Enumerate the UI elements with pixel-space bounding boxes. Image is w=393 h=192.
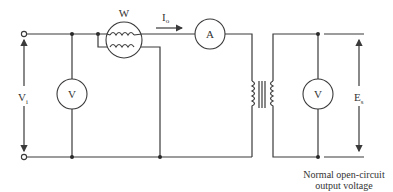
input-terminal-bottom bbox=[21, 154, 26, 159]
output-voltmeter-label: V bbox=[314, 88, 322, 100]
junction-dot bbox=[158, 155, 162, 159]
caption-line-2: output voltage bbox=[315, 180, 373, 191]
output-voltage-label: Es bbox=[354, 91, 364, 106]
junction-dot bbox=[316, 32, 320, 36]
junction-dot bbox=[316, 155, 320, 159]
circuit-diagram: Vi V W Io A V bbox=[0, 0, 393, 192]
wattmeter-label: W bbox=[119, 7, 130, 19]
input-voltage-label: Vi bbox=[18, 91, 28, 106]
junction-dot bbox=[70, 155, 74, 159]
current-label: Io bbox=[162, 11, 170, 25]
wattmeter bbox=[106, 22, 142, 58]
caption-line-1: Normal open-circuit bbox=[303, 169, 385, 180]
transformer bbox=[252, 81, 273, 108]
input-terminal-top bbox=[21, 31, 26, 36]
junction-dot bbox=[70, 32, 74, 36]
ammeter-label: A bbox=[206, 28, 214, 40]
input-voltmeter-label: V bbox=[68, 88, 76, 100]
